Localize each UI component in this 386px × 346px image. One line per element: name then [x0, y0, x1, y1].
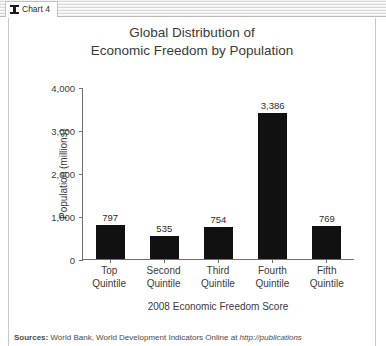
x-category-4: Fifth Quintile [300, 264, 354, 290]
x-category-3-line-2: Quintile [245, 277, 299, 290]
y-tick-label-0: 0 [70, 255, 79, 266]
bar-3[interactable] [258, 113, 287, 259]
y-tick-4: 4,000 [41, 82, 83, 94]
chart-title-line-2: Economic Freedom by Population [9, 42, 375, 60]
x-category-1: Second Quintile [137, 264, 191, 290]
x-tick-mark-4 [326, 259, 327, 263]
bar-value-label-0: 797 [102, 212, 118, 223]
y-tick-3: 3,000 [41, 125, 83, 137]
bar-column-second-quintile[interactable]: 535 [137, 87, 191, 259]
plot-area: Population (millions) 0 1,000 2,000 3,00… [82, 88, 354, 260]
x-tick-mark-0 [110, 259, 111, 263]
x-category-2-line-1: Third [191, 264, 245, 277]
x-axis-title: 2008 Economic Freedom Score [82, 300, 354, 313]
x-axis-category-labels: Top Quintile Second Quintile Third Quint… [82, 264, 354, 290]
chart-title: Global Distribution of Economic Freedom … [9, 24, 375, 60]
bar-4[interactable] [312, 226, 341, 259]
y-tick-0: 0 [41, 254, 83, 266]
x-category-2: Third Quintile [191, 264, 245, 290]
bar-value-label-1: 535 [156, 223, 172, 234]
y-tick-2: 2,000 [41, 168, 83, 180]
chart-page: Chart 4 Global Distribution of Economic … [0, 0, 386, 346]
tab-chart-4[interactable]: Chart 4 [5, 1, 58, 17]
y-tick-label-4: 4,000 [51, 83, 79, 94]
source-note-lead: Sources: [14, 333, 48, 342]
y-tick-label-3: 3,000 [51, 126, 79, 137]
y-tick-mark-0 [79, 260, 83, 261]
page-border-left [8, 18, 9, 346]
bar-column-fourth-quintile[interactable]: 3,386 [246, 87, 300, 259]
source-note-url: http://publications [240, 333, 302, 342]
y-tick-1: 1,000 [41, 211, 83, 223]
x-category-3: Fourth Quintile [245, 264, 299, 290]
tab-strip: Chart 4 [0, 0, 386, 17]
bar-column-third-quintile[interactable]: 754 [191, 87, 245, 259]
bar-column-top-quintile[interactable]: 797 [83, 87, 137, 259]
x-category-0-line-2: Quintile [82, 277, 136, 290]
x-category-4-line-2: Quintile [300, 277, 354, 290]
x-category-1-line-2: Quintile [137, 277, 191, 290]
x-category-4-line-1: Fifth [300, 264, 354, 277]
source-note: Sources: World Bank, World Development I… [14, 332, 374, 343]
x-category-2-line-2: Quintile [191, 277, 245, 290]
bar-0[interactable] [96, 225, 125, 259]
chart-title-line-1: Global Distribution of [9, 24, 375, 42]
source-note-text: World Bank, World Development Indicators… [48, 333, 239, 342]
x-category-1-line-1: Second [137, 264, 191, 277]
bar-2[interactable] [204, 227, 233, 259]
y-tick-label-2: 2,000 [51, 169, 79, 180]
x-tick-mark-2 [218, 259, 219, 263]
y-tick-label-1: 1,000 [51, 212, 79, 223]
x-category-0: Top Quintile [82, 264, 136, 290]
page-border-right [375, 18, 376, 346]
bar-value-label-4: 769 [319, 213, 335, 224]
x-category-3-line-1: Fourth [245, 264, 299, 277]
x-tick-mark-3 [272, 259, 273, 263]
x-tick-mark-1 [164, 259, 165, 263]
bar-value-label-2: 754 [211, 214, 227, 225]
tab-label: Chart 4 [22, 5, 50, 14]
bar-column-fifth-quintile[interactable]: 769 [300, 87, 354, 259]
bar-1[interactable] [150, 236, 179, 259]
bar-series: 797 535 754 3,386 769 [83, 87, 354, 259]
bar-value-label-3: 3,386 [261, 100, 285, 111]
x-category-0-line-1: Top [82, 264, 136, 277]
bar-chart-icon [10, 5, 19, 14]
